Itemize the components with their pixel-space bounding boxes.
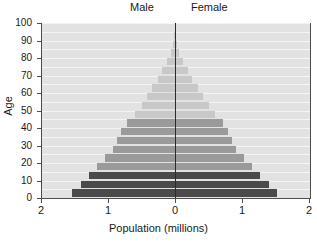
bar-male-30-34 [117,137,175,144]
bar-male-25-29 [113,146,175,153]
y-tick-label: 20 [6,157,32,168]
bar-female-25-29 [175,146,236,153]
x-tick-label: 1 [100,204,116,216]
bar-female-50-54 [175,102,209,109]
bar-female-20-24 [175,154,244,161]
bar-male-65-69 [158,76,175,83]
bar-male-45-49 [135,111,175,118]
x-tick-mark [309,199,310,203]
bar-female-5-9 [175,181,269,188]
bar-male-75-79 [167,58,175,65]
bar-male-35-39 [121,128,175,135]
bar-male-60-64 [152,84,175,91]
bar-male-0-4 [72,189,175,196]
y-tick-mark [37,181,41,182]
bar-female-75-79 [175,58,183,65]
y-tick-mark [37,23,41,24]
center-axis-line [175,23,176,198]
x-tick-mark [41,199,42,203]
bar-male-50-54 [142,102,176,109]
x-tick-label: 1 [234,204,250,216]
population-pyramid-figure: Male Female 0102030405060708090100 21012… [0,0,317,244]
bar-female-45-49 [175,111,215,118]
bar-male-15-19 [97,163,175,170]
bar-female-30-34 [175,137,232,144]
axis-bottom-spine [41,198,311,199]
y-tick-label: 100 [6,17,32,28]
bar-male-70-74 [162,67,175,74]
y-tick-label: 0 [6,192,32,203]
y-axis-label: Age [2,86,14,126]
axis-left-spine [41,23,42,199]
x-tick-label: 0 [167,204,183,216]
bar-female-10-14 [175,172,260,179]
y-tick-mark [37,111,41,112]
plot-area [41,23,310,198]
x-tick-mark [242,199,243,203]
bar-male-55-59 [147,93,175,100]
y-tick-mark [37,93,41,94]
bar-female-35-39 [175,128,228,135]
y-tick-label: 90 [6,35,32,46]
bar-female-0-4 [175,189,277,196]
male-column-label: Male [130,1,154,13]
bar-female-60-64 [175,84,198,91]
bar-female-65-69 [175,76,192,83]
y-tick-mark [37,163,41,164]
x-tick-mark [175,199,176,203]
x-tick-label: 2 [33,204,49,216]
axis-right-spine [310,23,311,199]
y-tick-label: 80 [6,52,32,63]
x-tick-mark [108,199,109,203]
x-tick-label: 2 [301,204,317,216]
y-tick-label: 10 [6,175,32,186]
bar-female-15-19 [175,163,252,170]
y-tick-mark [37,76,41,77]
y-tick-mark [37,128,41,129]
y-tick-mark [37,58,41,59]
bar-male-5-9 [81,181,175,188]
x-axis-label: Population (millions) [0,222,317,234]
bar-male-20-24 [105,154,175,161]
y-tick-mark [37,146,41,147]
bar-female-70-74 [175,67,188,74]
bar-male-40-44 [127,119,175,126]
y-tick-label: 70 [6,70,32,81]
y-tick-label: 30 [6,140,32,151]
female-column-label: Female [191,1,228,13]
bar-female-40-44 [175,119,223,126]
y-tick-mark [37,41,41,42]
bar-male-10-14 [89,172,175,179]
bar-female-55-59 [175,93,203,100]
